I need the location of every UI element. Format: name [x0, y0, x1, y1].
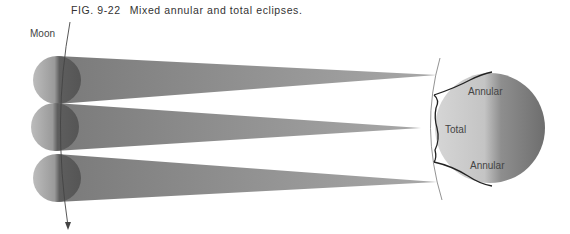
moon-label: Moon [30, 28, 55, 39]
moons [31, 56, 81, 202]
shadow-cones [55, 56, 437, 202]
shadow-cone-middle [55, 103, 421, 151]
total-label: Total [445, 124, 466, 135]
moon-bottom [33, 154, 81, 202]
moon-middle [31, 103, 79, 151]
eclipse-diagram [0, 0, 570, 234]
moon-top [33, 56, 81, 104]
annular-top-label: Annular [468, 86, 502, 97]
annular-bottom-label: Annular [470, 160, 504, 171]
orbit-arrow-icon [65, 222, 71, 230]
shadow-cone-bottom [57, 154, 437, 202]
shadow-cone-top [57, 56, 437, 104]
